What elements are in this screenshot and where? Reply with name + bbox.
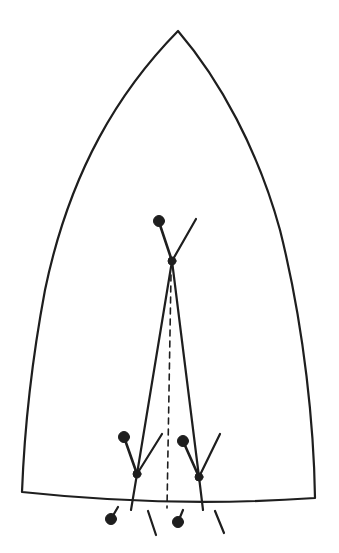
pin-bottom-right — [173, 510, 225, 533]
dart-center-fold — [167, 275, 171, 508]
pin-right — [178, 434, 221, 481]
pin-bottom-left — [106, 507, 157, 535]
pin-top — [154, 216, 197, 266]
pattern-diagram — [0, 0, 339, 553]
